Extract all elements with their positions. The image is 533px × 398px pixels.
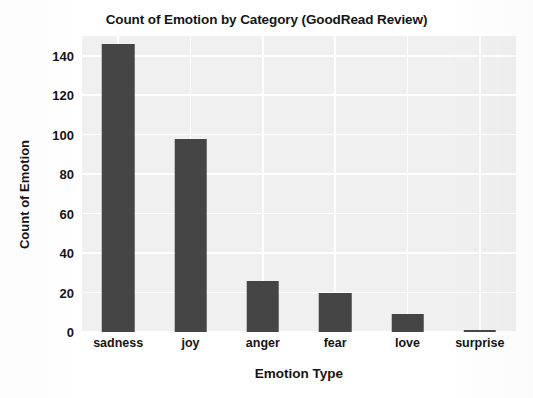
y-tick-label: 60 <box>2 206 74 221</box>
gridline <box>82 252 516 254</box>
y-tick-label: 100 <box>2 127 74 142</box>
y-tick-label: 40 <box>2 246 74 261</box>
bar-love <box>391 314 424 332</box>
x-tick-label-sadness: sadness <box>93 336 143 350</box>
x-tick-label-love: love <box>395 336 420 350</box>
bar-fear <box>319 293 352 332</box>
gridline <box>82 173 516 175</box>
y-tick-label: 80 <box>2 167 74 182</box>
chart-title: Count of Emotion by Category (GoodRead R… <box>0 12 533 27</box>
gridline <box>82 213 516 215</box>
y-tick-label: 20 <box>2 285 74 300</box>
bar-sadness <box>102 44 135 332</box>
bar-anger <box>247 281 280 332</box>
y-tick-label: 140 <box>2 48 74 63</box>
x-tick-label-surprise: surprise <box>455 336 504 350</box>
vertical-gridline <box>407 36 409 332</box>
x-tick-label-anger: anger <box>246 336 280 350</box>
gridline <box>82 134 516 136</box>
vertical-gridline <box>479 36 481 332</box>
chart-figure: Count of Emotion by Category (GoodRead R… <box>0 0 533 398</box>
x-axis-label: Emotion Type <box>82 366 516 381</box>
bar-joy <box>174 139 207 332</box>
y-tick-label: 120 <box>2 88 74 103</box>
y-axis-tick-labels: 020406080100120140 <box>0 36 74 332</box>
bar-surprise <box>464 330 497 332</box>
vertical-gridline <box>334 36 336 332</box>
y-tick-label: 0 <box>2 325 74 340</box>
gridline <box>82 94 516 96</box>
plot-area <box>82 36 516 332</box>
gridline <box>82 55 516 57</box>
gridline <box>82 331 516 332</box>
gridline <box>82 292 516 294</box>
x-axis-tick-labels: sadnessjoyangerfearlovesurprise <box>82 336 516 360</box>
x-tick-label-joy: joy <box>181 336 199 350</box>
x-tick-label-fear: fear <box>324 336 347 350</box>
